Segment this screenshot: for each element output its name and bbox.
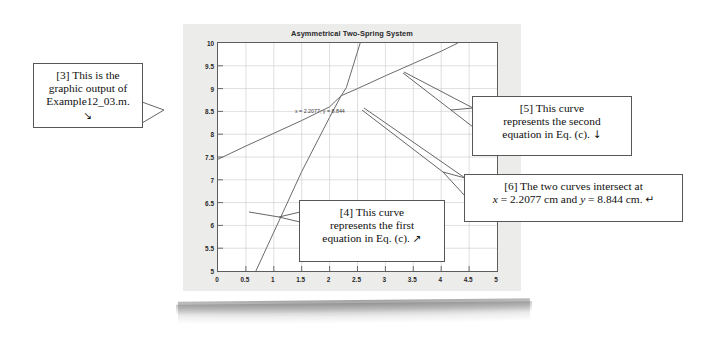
xtick-label: 2.5 bbox=[352, 276, 361, 283]
callout-3-arrow-icon: ↘ bbox=[38, 109, 138, 121]
callout-6-line-2: x = 2.2077 cm and y = 8.844 cm. ↵ bbox=[469, 193, 678, 206]
xtick-label: 1 bbox=[271, 276, 275, 283]
xtick-label: 3.5 bbox=[408, 276, 417, 283]
callout-3-line-1: [3] This is the bbox=[38, 69, 138, 82]
figure-page: Asymmetrical Two-Spring System bbox=[0, 0, 701, 345]
ytick-label: 7.5 bbox=[205, 154, 214, 161]
callout-3-line-3: Example12_03.m. bbox=[38, 95, 138, 108]
callout-5-line-2: represents the second bbox=[477, 115, 627, 128]
callout-5-line-3-text: equation in Eq. (c). bbox=[502, 128, 590, 140]
ytick-label: 7 bbox=[210, 176, 214, 183]
callout-3: [3] This is the graphic output of Exampl… bbox=[33, 63, 143, 128]
ytick-label: 5 bbox=[210, 268, 214, 275]
intersection-point-label: x = 2.2077; y = 8.844 bbox=[295, 108, 345, 114]
ytick-label: 5.5 bbox=[205, 245, 214, 252]
xtick-label: 5 bbox=[494, 276, 498, 283]
callout-6-x-value: = 2.2077 cm and bbox=[498, 193, 580, 205]
callout-4-line-3-text: equation in Eq. (c). bbox=[322, 232, 410, 244]
xtick-label: 2 bbox=[327, 276, 331, 283]
ytick-label: 9 bbox=[210, 85, 214, 92]
callout-4-line-2: represents the first bbox=[304, 219, 440, 232]
chart-title: Asymmetrical Two-Spring System bbox=[183, 29, 521, 38]
ytick-label: 8 bbox=[210, 131, 214, 138]
ytick-label: 6 bbox=[210, 222, 214, 229]
callout-5: [5] This curve represents the second equ… bbox=[472, 96, 632, 156]
ytick-label: 9.5 bbox=[205, 62, 214, 69]
callout-4-line-1: [4] This curve bbox=[304, 206, 440, 219]
xtick-label: 3 bbox=[383, 276, 387, 283]
xtick-label: 4.5 bbox=[464, 276, 473, 283]
xtick-label: 4 bbox=[438, 276, 442, 283]
callout-3-line-2: graphic output of bbox=[38, 82, 138, 95]
callout-5-line-3: equation in Eq. (c). ↓ bbox=[477, 128, 627, 141]
callout-4-line-3: equation in Eq. (c). ↗ bbox=[304, 232, 440, 245]
callout-5-arrow-icon: ↓ bbox=[593, 128, 602, 140]
callout-4-arrow-icon: ↗ bbox=[413, 232, 422, 244]
callout-6-y-value: = 8.844 cm. bbox=[585, 193, 642, 205]
page-edge-shadow bbox=[178, 298, 530, 327]
xtick-label: 0.5 bbox=[240, 276, 249, 283]
xtick-label: 1.5 bbox=[296, 276, 305, 283]
xtick-label: 0 bbox=[215, 276, 219, 283]
callout-6-line-1: [6] The two curves intersect at bbox=[469, 180, 678, 193]
callout-6: [6] The two curves intersect at x = 2.20… bbox=[464, 174, 683, 222]
ytick-label: 10 bbox=[207, 40, 214, 47]
callout-4: [4] This curve represents the first equa… bbox=[299, 200, 445, 262]
ytick-label: 8.5 bbox=[205, 108, 214, 115]
ytick-label: 6.5 bbox=[205, 199, 214, 206]
callout-6-arrow-icon: ↵ bbox=[645, 193, 654, 205]
leader-callout-3 bbox=[142, 102, 164, 123]
callout-5-line-1: [5] This curve bbox=[477, 102, 627, 115]
